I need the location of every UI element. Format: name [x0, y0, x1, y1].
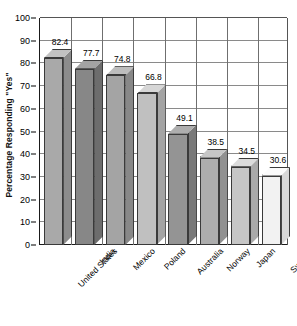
bar[interactable] [44, 58, 63, 245]
y-tick-mark [31, 108, 36, 109]
y-tick-mark [31, 40, 36, 41]
y-tick-mark [31, 86, 36, 87]
bar[interactable] [75, 69, 94, 245]
bar-value-label: 82.4 [46, 37, 74, 47]
y-tick-label: 0 [25, 240, 30, 250]
x-tick-label: Sweden [288, 246, 297, 275]
y-axis-title-text: Percentage Responding "Yes" [4, 72, 14, 197]
bar-front-face [44, 58, 63, 245]
x-axis-category-labels: United StatesIndiaMexicoPolandAustraliaN… [39, 246, 288, 326]
bar-side-face [250, 158, 259, 245]
y-tick-mark [31, 199, 36, 200]
y-tick-label: 50 [20, 127, 30, 137]
bar-front-face [75, 69, 94, 245]
bar-chart: Percentage Responding "Yes" 100908070605… [0, 0, 297, 326]
bar[interactable] [168, 134, 187, 245]
bar-value-label: 38.5 [202, 137, 230, 147]
plot-area: 82.477.774.866.849.138.534.530.6 [39, 18, 288, 245]
y-tick-mark [31, 222, 36, 223]
bar-side-face [219, 149, 228, 245]
bar-side-face [281, 167, 290, 245]
y-tick-label: 40 [20, 149, 30, 159]
y-tick-label: 100 [15, 13, 30, 23]
y-tick-label: 30 [20, 172, 30, 182]
x-tick-label: Norway [225, 246, 252, 273]
bar[interactable] [106, 75, 125, 245]
bar-value-label: 49.1 [170, 113, 198, 123]
y-axis-tick-labels: 1009080706050403020100 [14, 0, 36, 270]
y-tick-mark [31, 176, 36, 177]
y-tick-label: 10 [20, 217, 30, 227]
x-tick-label: Australia [195, 246, 225, 276]
y-tick-mark [31, 18, 36, 19]
x-tick-label: Poland [162, 246, 188, 272]
y-tick-label: 90 [20, 36, 30, 46]
bar-side-face [94, 60, 103, 245]
y-tick-mark [31, 245, 36, 246]
bar-value-label: 34.5 [233, 146, 261, 156]
x-tick-label: Mexico [131, 246, 157, 272]
bar-side-face [125, 66, 134, 245]
bar[interactable] [137, 93, 156, 245]
bar-value-label: 30.6 [264, 155, 292, 165]
y-tick-mark [31, 63, 36, 64]
y-tick-label: 60 [20, 104, 30, 114]
bar-front-face [200, 158, 219, 245]
bar-front-face [137, 93, 156, 245]
bar-front-face [168, 134, 187, 245]
bar-value-label: 77.7 [77, 48, 105, 58]
bar-value-label: 74.8 [108, 54, 136, 64]
bar-front-face [231, 167, 250, 245]
y-tick-label: 20 [20, 195, 30, 205]
bar-series: 82.477.774.866.849.138.534.530.6 [40, 18, 287, 245]
bar-front-face [262, 176, 281, 245]
bar[interactable] [262, 176, 281, 245]
bar[interactable] [231, 167, 250, 245]
y-tick-label: 70 [20, 81, 30, 91]
bar-side-face [157, 84, 166, 245]
y-tick-mark [31, 154, 36, 155]
bar-value-label: 66.8 [139, 72, 167, 82]
bar-side-face [188, 125, 197, 245]
bar-front-face [106, 75, 125, 245]
y-tick-label: 80 [20, 58, 30, 68]
bar-side-face [63, 49, 72, 245]
bar[interactable] [200, 158, 219, 245]
y-tick-mark [31, 131, 36, 132]
x-tick-label: Japan [254, 246, 277, 269]
